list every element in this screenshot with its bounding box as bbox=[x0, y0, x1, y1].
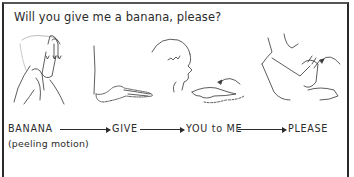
page-title: Will you give me a banana, please? bbox=[14, 10, 221, 24]
sequence-word-banana: BANANA bbox=[8, 123, 53, 134]
sequence-word-please: PLEASE bbox=[288, 123, 328, 134]
sequence-word-give: GIVE bbox=[112, 123, 138, 134]
banana-sign-icon bbox=[14, 36, 64, 105]
arrow-right-icon bbox=[238, 129, 286, 130]
sign-sequence: BANANA GIVE YOU to ME PLEASE bbox=[8, 123, 348, 137]
arrow-right-icon bbox=[60, 129, 110, 130]
sequence-word-you-to-me: YOU to ME bbox=[186, 123, 242, 134]
you-to-me-sign-icon bbox=[152, 39, 244, 102]
please-sign-icon bbox=[262, 34, 340, 100]
sign-illustrations bbox=[0, 30, 354, 115]
give-sign-icon bbox=[94, 46, 152, 102]
arrow-right-icon bbox=[140, 129, 184, 130]
banana-note: (peeling motion) bbox=[8, 138, 89, 149]
